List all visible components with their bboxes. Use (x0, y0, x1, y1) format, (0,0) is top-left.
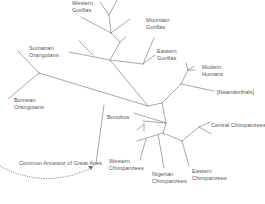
branch-western-gorilla-stem (109, 15, 111, 33)
branch-human-a (186, 63, 188, 70)
branch-eastern-gorilla-stem (110, 60, 143, 64)
label-western-gorillas: Western Gorillas (72, 0, 93, 14)
ancestor-dotted-arrow (0, 166, 91, 179)
branch-orangutan-to-center (39, 73, 148, 106)
branch-western-gorilla-a (100, 2, 109, 15)
branch-central-chimp-stem (182, 127, 199, 141)
label-central-chimpanzees: Central Chimpanzees (211, 122, 265, 129)
branch-chimp-down (163, 123, 166, 133)
branch-gorilla-mid (111, 33, 120, 42)
branch-gorilla-small (120, 37, 126, 42)
branch-human-up (162, 84, 181, 103)
branch-ancestor-root (96, 105, 104, 164)
branch-gorilla-stem (110, 60, 148, 106)
label-common-ancestor: Common Ancestor of Great Apes (19, 160, 102, 167)
label-nigerian-chimpanzees: Nigerian Chimpanzees (152, 171, 187, 185)
branch-eastern-chimp (182, 141, 189, 166)
branch-bonobo-leaf-a (137, 124, 144, 130)
label-mountain-gorillas: Mountain Gorillas (146, 17, 169, 31)
branch-chimp-stem (162, 103, 166, 123)
branch-central-chimp-a (199, 122, 210, 127)
branch-mountain-gorilla (111, 19, 130, 33)
branch-western-gorilla-leaf (81, 17, 111, 33)
label-bonobos: Bonobos (107, 114, 129, 121)
label-western-chimpanzees: Western Chimpanzees (109, 158, 144, 172)
label-eastern-gorillas: Eastern Gorillas (157, 48, 177, 62)
branch-western-gorilla-b (109, 0, 117, 15)
label-eastern-chimpanzees: Eastern Chimpanzees (192, 168, 227, 182)
label-sumatran-orangutans: Sumatran Orangutans (29, 45, 59, 59)
branch-western-chimp (140, 139, 146, 160)
branch-human-fork (181, 70, 188, 84)
branch-human-stem (148, 103, 162, 106)
phylogenetic-tree-diagram: Western Gorillas Mountain Gorillas Easte… (0, 0, 265, 204)
branch-sumatran-upper (79, 41, 93, 55)
branch-eastern-central-stem (163, 133, 182, 141)
label-modern-humans: Modern Humans (202, 64, 223, 78)
branch-bornean-orangutans (8, 73, 39, 99)
branch-human-b (188, 66, 194, 70)
branch-sumatran-lower (69, 52, 110, 60)
label-bornean-orangutans: Bornean Orangutans (14, 97, 44, 111)
branch-central-chimp-b (199, 127, 211, 134)
branch-neanderthals (181, 84, 214, 91)
branch-nigerian-chimp (158, 134, 164, 168)
label-neanderthals: [Neanderthals] (217, 89, 254, 96)
branch-gorilla-up (110, 42, 120, 60)
